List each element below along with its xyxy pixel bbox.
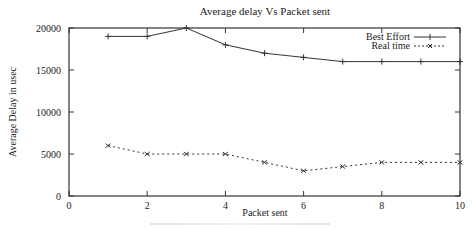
x-axis-label: Packet sent — [242, 207, 287, 218]
x-tick-label: 2 — [145, 200, 150, 211]
y-axis-label: Average Delay in usec — [7, 66, 18, 157]
series-line-real-time — [108, 146, 460, 171]
legend-label: Real time — [371, 40, 410, 51]
x-tick-label: 4 — [223, 200, 228, 211]
figure-caption-faint — [150, 223, 330, 225]
y-tick-label: 15000 — [36, 65, 61, 76]
legend: Best EffortReal time — [366, 31, 446, 51]
x-axis-ticks: 0246810 — [67, 28, 466, 211]
x-tick-label: 10 — [455, 200, 465, 211]
y-tick-label: 10000 — [36, 107, 61, 118]
x-tick-label: 6 — [301, 200, 306, 211]
y-tick-label: 20000 — [36, 23, 61, 34]
chart-title: Average delay Vs Packet sent — [200, 5, 330, 17]
x-tick-label: 8 — [379, 200, 384, 211]
y-tick-label: 5000 — [41, 149, 61, 160]
x-tick-label: 0 — [67, 200, 72, 211]
y-tick-label: 0 — [56, 191, 61, 202]
line-chart: Average delay Vs Packet sent Average Del… — [0, 0, 473, 230]
